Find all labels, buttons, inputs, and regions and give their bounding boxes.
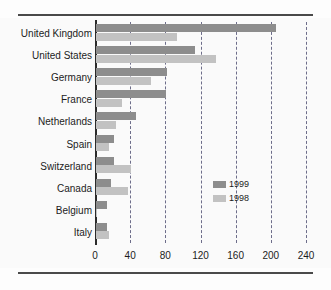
- chart-figure: United KingdomUnited StatesGermanyFrance…: [0, 0, 331, 290]
- bar-1998-spain: [96, 143, 109, 151]
- bar-row: Spain: [95, 133, 306, 155]
- category-label-spain: Spain: [66, 138, 92, 149]
- x-tick-label-80: 80: [160, 250, 171, 261]
- legend-swatch-1999: [213, 181, 226, 188]
- bar-1998-italy: [96, 231, 109, 239]
- bar-1998-united-states: [96, 55, 216, 63]
- bar-1999-switzerland: [96, 157, 114, 165]
- bar-1998-netherlands: [96, 121, 116, 129]
- x-tick-label-0: 0: [92, 250, 98, 261]
- bar-1999-italy: [96, 223, 107, 231]
- bar-1999-netherlands: [96, 112, 136, 120]
- x-tick-label-40: 40: [125, 250, 136, 261]
- category-label-switzerland: Switzerland: [40, 160, 92, 171]
- legend-item-1998: 1998: [213, 192, 249, 204]
- gridline-240: [306, 22, 307, 243]
- bottom-divider-rule: [18, 272, 313, 274]
- bar-row: United States: [95, 44, 306, 66]
- plot-region: United KingdomUnited StatesGermanyFrance…: [0, 18, 331, 268]
- bar-1998-united-kingdom: [96, 33, 177, 41]
- bar-1998-switzerland: [96, 165, 131, 173]
- bar-1999-belgium: [96, 201, 107, 209]
- bar-1999-united-kingdom: [96, 24, 276, 32]
- bar-1998-france: [96, 99, 122, 107]
- x-tick-label-240: 240: [298, 250, 315, 261]
- bar-row: Canada: [95, 177, 306, 199]
- legend-label-1998: 1998: [229, 194, 249, 203]
- x-tick-label-200: 200: [262, 250, 279, 261]
- top-divider-rule: [18, 14, 313, 16]
- category-label-netherlands: Netherlands: [38, 116, 92, 127]
- plot-area: United KingdomUnited StatesGermanyFrance…: [95, 22, 306, 243]
- category-label-italy: Italy: [74, 226, 92, 237]
- bar-1999-france: [96, 90, 166, 98]
- chart-legend: 19991998: [213, 178, 249, 206]
- category-label-germany: Germany: [51, 72, 92, 83]
- bar-1999-canada: [96, 179, 111, 187]
- bar-row: Switzerland: [95, 155, 306, 177]
- legend-swatch-1998: [213, 195, 226, 202]
- category-label-canada: Canada: [57, 182, 92, 193]
- bar-row: Italy: [95, 221, 306, 243]
- legend-label-1999: 1999: [229, 180, 249, 189]
- bar-row: Belgium: [95, 199, 306, 221]
- x-tick-label-120: 120: [192, 250, 209, 261]
- bar-row: United Kingdom: [95, 22, 306, 44]
- bar-row: Netherlands: [95, 110, 306, 132]
- bar-1998-germany: [96, 77, 151, 85]
- bar-1998-canada: [96, 187, 128, 195]
- bar-1999-spain: [96, 135, 114, 143]
- bar-row: France: [95, 88, 306, 110]
- category-label-united-kingdom: United Kingdom: [21, 28, 92, 39]
- bar-1998-belgium: [96, 209, 97, 217]
- x-tick-label-160: 160: [227, 250, 244, 261]
- category-label-belgium: Belgium: [56, 204, 92, 215]
- category-label-united-states: United States: [32, 50, 92, 61]
- legend-item-1999: 1999: [213, 178, 249, 190]
- bar-1999-germany: [96, 68, 167, 76]
- bar-1999-united-states: [96, 46, 195, 54]
- category-label-france: France: [61, 94, 92, 105]
- bar-row: Germany: [95, 66, 306, 88]
